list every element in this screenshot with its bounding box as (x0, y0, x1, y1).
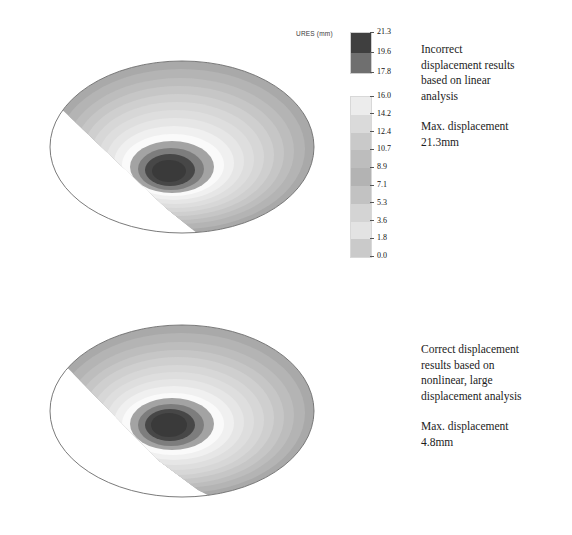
legend-top-block-ticks: 21.3 19.6 17.8 (370, 26, 414, 78)
annotation-line: Incorrect (421, 42, 569, 58)
contour-plot-canvas (48, 322, 316, 500)
annotation-linear: Incorrect displacement results based on … (421, 42, 569, 150)
annotation-line: Correct displacement (421, 342, 569, 358)
annotation-line: displacement results (421, 58, 569, 74)
legend-main-bar (350, 96, 372, 258)
contour-plot-linear[interactable] (48, 58, 316, 236)
annotation-line: nonlinear, large (421, 373, 569, 389)
annotation-line: analysis (421, 89, 569, 105)
annotation-line: based on linear (421, 73, 569, 89)
legend-band-19.6 (351, 53, 371, 73)
legend-band-5.3 (351, 204, 371, 222)
legend-band-10.7 (351, 150, 371, 168)
max-displacement-value: 4.8mm (421, 435, 569, 451)
legend-band-8.9 (351, 168, 371, 186)
annotation-line: displacement analysis (421, 389, 569, 405)
legend-main-ticks: 16.0 14.2 12.4 10.7 8.9 7.1 5.3 3.6 1.8 … (370, 92, 414, 264)
legend-title: URES (mm) (296, 30, 333, 37)
annotation-nonlinear: Correct displacement results based on no… (421, 342, 569, 450)
legend-band-12.4 (351, 133, 371, 151)
legend-band-21.3 (351, 33, 371, 53)
legend-main-block: 16.0 14.2 12.4 10.7 8.9 7.1 5.3 3.6 1.8 … (350, 92, 414, 264)
legend-band-7.1 (351, 186, 371, 204)
legend-top-block-bar (350, 32, 372, 74)
legend-band-3.6 (351, 222, 371, 240)
max-displacement-value: 21.3mm (421, 135, 569, 151)
panel-nonlinear-analysis: URES (mm) 4.8 4.4 4.0 (0, 268, 572, 535)
max-displacement-label: Max. displacement (421, 119, 569, 135)
legend-band-14.2 (351, 115, 371, 133)
panel-linear-analysis: URES (mm) 21.3 19.6 17.8 (0, 0, 572, 268)
max-displacement-label: Max. displacement (421, 419, 569, 435)
legend-band-1.8 (351, 239, 371, 257)
annotation-spacer (421, 104, 569, 119)
contour-plot-nonlinear[interactable] (48, 322, 316, 500)
annotation-line: results based on (421, 358, 569, 374)
annotation-spacer (421, 404, 569, 419)
contour-plot-canvas (48, 58, 316, 236)
legend-top-block: 21.3 19.6 17.8 (350, 26, 414, 78)
legend-band-16.0 (351, 97, 371, 115)
